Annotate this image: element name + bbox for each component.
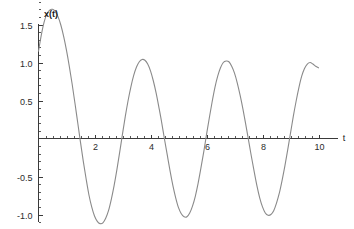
y-tick-label: -1.0 xyxy=(17,211,33,221)
x-axis-tick-labels: 246810 xyxy=(93,142,325,152)
x-tick-label: 10 xyxy=(314,142,324,152)
y-tick-label: -0.5 xyxy=(17,173,33,183)
y-tick-label: 1.5 xyxy=(20,21,33,31)
chart-figure: 246810 -1.0-0.50.51.01.5 x(t) t xyxy=(0,0,354,229)
x-tick-label: 8 xyxy=(261,142,266,152)
data-series-line xyxy=(39,9,319,224)
y-axis-tick-labels: -1.0-0.50.51.01.5 xyxy=(17,21,33,221)
x-axis-major-ticks xyxy=(96,135,320,139)
x-tick-label: 2 xyxy=(93,142,98,152)
y-axis-major-ticks xyxy=(39,26,43,216)
y-axis-title: x(t) xyxy=(44,9,58,19)
x-tick-label: 4 xyxy=(149,142,154,152)
y-tick-label: 0.5 xyxy=(20,97,33,107)
plot-canvas: 246810 -1.0-0.50.51.01.5 x(t) t xyxy=(0,0,354,229)
x-tick-label: 6 xyxy=(205,142,210,152)
x-axis-title: t xyxy=(343,133,346,143)
y-tick-label: 1.0 xyxy=(20,59,33,69)
